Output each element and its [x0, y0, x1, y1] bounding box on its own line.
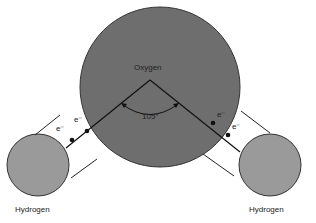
- electron-label: e⁻: [217, 110, 225, 119]
- oxygen-label: Oxygen: [134, 63, 162, 72]
- hydrogen-left-label: Hydrogen: [15, 205, 50, 214]
- angle-label: 105°: [142, 112, 159, 121]
- electron-label: e⁻: [56, 124, 64, 133]
- electron-dot: [211, 121, 216, 126]
- hydrogen-atom-left: [7, 134, 69, 196]
- electron-dot: [85, 129, 90, 134]
- bracket-line: [71, 159, 97, 178]
- hydrogen-right-label: Hydrogen: [249, 205, 284, 214]
- electron-dot: [226, 133, 231, 138]
- bracket-line: [203, 154, 234, 176]
- bracket-line: [241, 111, 270, 133]
- hydrogen-atom-right: [239, 134, 301, 196]
- electron-dot: [70, 138, 75, 143]
- electron-label: e⁻: [74, 115, 82, 124]
- electron-label: e⁻: [232, 122, 240, 131]
- oxygen-atom: [80, 7, 240, 167]
